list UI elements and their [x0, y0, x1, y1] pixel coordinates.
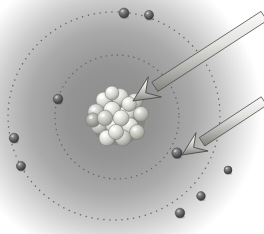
atomic-model-figure [0, 0, 264, 234]
nucleon-18 [108, 124, 123, 139]
nucleon-14 [105, 86, 119, 100]
nucleon-6 [133, 106, 148, 121]
nucleon-12 [130, 125, 145, 140]
nucleon-16 [97, 110, 113, 126]
nucleon-17 [113, 110, 129, 126]
atom-diagram-canvas [0, 0, 264, 234]
